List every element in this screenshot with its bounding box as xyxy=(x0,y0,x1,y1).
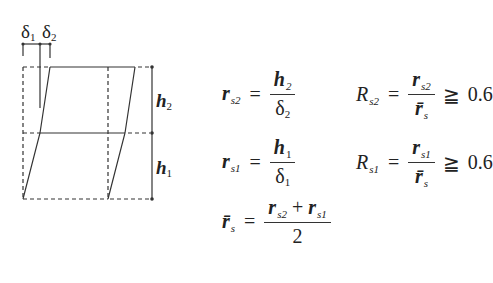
h2-symbol: h xyxy=(156,90,167,111)
equals-sign: = xyxy=(250,83,261,106)
delta2-subscript: 2 xyxy=(51,31,57,43)
denominator: δ2 xyxy=(271,95,294,120)
equals-sign: = xyxy=(250,151,261,174)
equation-rbar: r̄s = rs2 + rs1 2 xyxy=(222,196,331,247)
equals-sign: = xyxy=(244,210,255,233)
equation-Rs2: Rs2 = rs2 r̄s ≧ 0.6 xyxy=(356,68,493,121)
equals-sign: = xyxy=(388,151,399,174)
equation-Rs1: Rs1 = rs1 r̄s ≧ 0.6 xyxy=(356,136,493,189)
h2-subscript: 2 xyxy=(167,100,173,112)
rbar-lhs: r̄s xyxy=(222,210,235,234)
h1-subscript: 1 xyxy=(167,167,173,179)
fraction: rs2 + rs1 2 xyxy=(264,196,330,247)
denominator: 2 xyxy=(289,223,307,247)
numerator: rs2 + rs1 xyxy=(264,196,330,223)
delta1-label: δ1 xyxy=(21,22,35,43)
numerator: rs2 xyxy=(408,68,435,95)
numerator: rs1 xyxy=(408,136,435,163)
fraction: rs2 r̄s xyxy=(408,68,435,121)
Rs1-lhs: Rs1 xyxy=(356,151,379,175)
plus-sign: + xyxy=(292,196,303,218)
fraction: h1 δ1 xyxy=(270,136,296,188)
rs2-lhs: rs2 xyxy=(222,82,241,106)
Rs2-lhs: Rs2 xyxy=(356,83,379,107)
numerator: h2 xyxy=(270,68,296,95)
denominator: δ1 xyxy=(271,163,294,188)
rs1-lhs: rs1 xyxy=(222,150,241,174)
delta1-subscript: 1 xyxy=(30,31,36,43)
threshold-value: 0.6 xyxy=(468,151,493,174)
h2-label: h2 xyxy=(156,91,172,112)
delta2-label: δ2 xyxy=(42,22,56,43)
delta2-symbol: δ xyxy=(42,21,51,42)
fraction: rs1 r̄s xyxy=(408,136,435,189)
equals-sign: = xyxy=(388,83,399,106)
fraction: h2 δ2 xyxy=(270,68,296,120)
denominator: r̄s xyxy=(411,163,432,189)
inequality-sign: ≧ xyxy=(443,151,460,175)
inequality-sign: ≧ xyxy=(443,83,460,107)
denominator: r̄s xyxy=(411,95,432,121)
equation-rs2: rs2 = h2 δ2 xyxy=(222,68,295,120)
numerator: h1 xyxy=(270,136,296,163)
h1-symbol: h xyxy=(156,157,167,178)
equation-rs1: rs1 = h1 δ1 xyxy=(222,136,295,188)
threshold-value: 0.6 xyxy=(468,83,493,106)
h1-label: h1 xyxy=(156,158,172,179)
delta1-symbol: δ xyxy=(21,21,30,42)
